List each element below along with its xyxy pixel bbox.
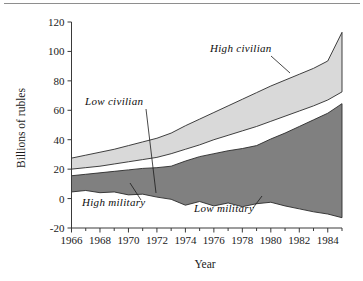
y-tick-label: 120 bbox=[48, 16, 65, 28]
x-tick-label: 1972 bbox=[146, 234, 168, 246]
x-tick-label: 1974 bbox=[174, 234, 197, 246]
y-tick-label: 60 bbox=[54, 104, 66, 116]
x-tick-label: 1966 bbox=[61, 234, 84, 246]
series-label-low-civilian: Low civilian bbox=[84, 95, 143, 107]
y-tick-label: 0 bbox=[59, 193, 65, 205]
x-tick-label: 1984 bbox=[317, 234, 340, 246]
y-tick-label: 40 bbox=[54, 134, 66, 146]
x-tick-label: 1976 bbox=[203, 234, 226, 246]
figure-canvas: -20020406080100120 196619681970197219741… bbox=[0, 0, 363, 281]
x-tick-label: 1982 bbox=[288, 234, 310, 246]
x-tick-label: 1980 bbox=[260, 234, 283, 246]
series-label-high-military: High military bbox=[81, 196, 145, 208]
x-axis-tick-labels: 1966196819701972197419761978198019821984 bbox=[61, 234, 340, 246]
chart-bands bbox=[72, 32, 343, 217]
area-chart: -20020406080100120 196619681970197219741… bbox=[0, 0, 363, 281]
x-tick-label: 1978 bbox=[231, 234, 254, 246]
y-tick-label: 20 bbox=[54, 163, 66, 175]
y-axis-ticks bbox=[68, 22, 72, 228]
series-label-low-military: Low military bbox=[193, 202, 254, 214]
y-tick-label: 80 bbox=[54, 75, 66, 87]
y-tick-label: -20 bbox=[50, 222, 65, 234]
leader-line bbox=[271, 56, 290, 73]
x-axis-ticks bbox=[72, 228, 343, 233]
y-axis-tick-labels: -20020406080100120 bbox=[48, 16, 65, 234]
x-axis-title: Year bbox=[194, 258, 215, 270]
y-axis-title: Billions of rubles bbox=[15, 88, 27, 168]
x-tick-label: 1968 bbox=[89, 234, 112, 246]
series-label-high-civilian: High civilian bbox=[209, 42, 272, 54]
y-tick-label: 100 bbox=[48, 45, 65, 57]
x-tick-label: 1970 bbox=[117, 234, 140, 246]
